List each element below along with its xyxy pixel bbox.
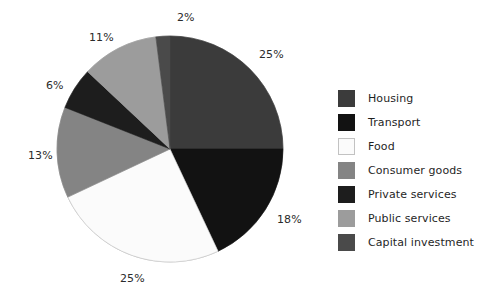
pie-percentage-label: 6% xyxy=(46,79,64,92)
pie-percentage-label: 25% xyxy=(120,272,145,285)
legend-swatch-icon xyxy=(338,90,355,107)
pie-percentage-label: 13% xyxy=(28,149,53,162)
legend-swatch-icon xyxy=(338,234,355,251)
legend-item[interactable]: Transport xyxy=(338,110,482,134)
pie-percentage-label: 25% xyxy=(259,48,284,61)
legend-swatch-icon xyxy=(338,186,355,203)
legend-swatch-icon xyxy=(338,138,355,155)
legend-swatch-icon xyxy=(338,210,355,227)
pie-percentage-label: 11% xyxy=(89,31,114,44)
legend-swatch-icon xyxy=(338,114,355,131)
legend-item[interactable]: Private services xyxy=(338,182,482,206)
pie-percentage-label: 18% xyxy=(277,213,302,226)
legend-item-label: Transport xyxy=(368,116,421,129)
legend-item[interactable]: Public services xyxy=(338,206,482,230)
pie-percentage-label: 2% xyxy=(177,11,195,24)
legend-item[interactable]: Capital investment xyxy=(338,230,482,254)
legend-item-label: Capital investment xyxy=(368,236,474,249)
legend-item-label: Housing xyxy=(368,92,413,105)
legend-item-label: Public services xyxy=(368,212,451,225)
chart-legend: HousingTransportFoodConsumer goodsPrivat… xyxy=(338,86,482,254)
legend-item[interactable]: Food xyxy=(338,134,482,158)
legend-item[interactable]: Consumer goods xyxy=(338,158,482,182)
legend-item-label: Food xyxy=(368,140,395,153)
pie-slice-group xyxy=(57,36,283,262)
legend-item-label: Private services xyxy=(368,188,457,201)
legend-item[interactable]: Housing xyxy=(338,86,482,110)
pie-chart-screenshot: 25%18%25%13%6%11%2% HousingTransportFood… xyxy=(0,0,482,299)
legend-item-label: Consumer goods xyxy=(368,164,462,177)
legend-swatch-icon xyxy=(338,162,355,179)
pie-chart-area: 25%18%25%13%6%11%2% xyxy=(0,0,320,299)
